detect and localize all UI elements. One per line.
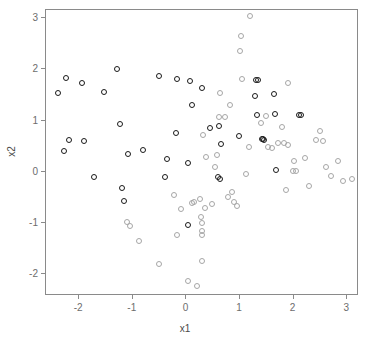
data-point-group-2	[246, 144, 252, 150]
data-point-group-2	[323, 164, 329, 170]
data-point-group-2	[156, 261, 162, 267]
data-point-group-2	[247, 13, 253, 19]
data-point-group-2	[279, 124, 285, 130]
y-tick-mark	[41, 120, 45, 121]
data-point-group-2	[285, 142, 291, 148]
data-point-group-2	[214, 152, 220, 158]
data-point-group-2	[178, 206, 184, 212]
data-point-group-1	[125, 151, 131, 157]
y-tick-label: 1	[32, 114, 38, 125]
data-point-group-1	[255, 77, 261, 83]
data-point-group-1	[162, 174, 168, 180]
data-point-group-2	[198, 214, 204, 220]
data-point-group-1	[81, 138, 87, 144]
data-point-group-2	[199, 258, 205, 264]
x-axis-label: x1	[0, 323, 370, 334]
data-point-group-1	[199, 85, 205, 91]
y-tick-label: -2	[29, 268, 38, 279]
data-point-group-1	[164, 156, 170, 162]
data-point-group-2	[349, 176, 355, 182]
y-tick-mark	[41, 222, 45, 223]
y-tick-label: 0	[32, 165, 38, 176]
x-tick-label: -1	[127, 302, 136, 313]
data-point-group-1	[185, 222, 191, 228]
x-tick-label: 2	[290, 302, 296, 313]
data-point-group-2	[229, 189, 235, 195]
x-tick-mark	[132, 295, 133, 299]
data-point-group-1	[61, 148, 67, 154]
data-point-group-1	[187, 78, 193, 84]
y-axis-label: x2	[6, 137, 17, 167]
data-point-group-2	[202, 205, 208, 211]
x-tick-label: 1	[236, 302, 242, 313]
data-point-group-1	[140, 147, 146, 153]
x-tick-mark	[185, 295, 186, 299]
data-point-group-2	[227, 102, 233, 108]
data-point-group-2	[185, 278, 191, 284]
data-point-group-1	[174, 76, 180, 82]
data-point-group-1	[91, 174, 97, 180]
x-tick-label: 0	[183, 302, 189, 313]
x-tick-mark	[78, 295, 79, 299]
data-point-group-2	[199, 232, 205, 238]
data-point-group-2	[275, 140, 281, 146]
data-point-group-2	[222, 114, 228, 120]
y-tick-label: -1	[29, 216, 38, 227]
data-point-group-1	[156, 73, 162, 79]
data-point-group-2	[171, 192, 177, 198]
y-tick-mark	[41, 68, 45, 69]
x-tick-mark	[293, 295, 294, 299]
data-point-group-1	[217, 176, 223, 182]
data-point-group-2	[237, 48, 243, 54]
plot-frame	[45, 9, 358, 295]
data-point-group-2	[306, 183, 312, 189]
data-point-group-1	[298, 112, 304, 118]
x-tick-label: -2	[74, 302, 83, 313]
data-point-group-1	[218, 141, 224, 147]
data-point-group-2	[127, 223, 133, 229]
data-point-group-1	[119, 185, 125, 191]
y-tick-mark	[41, 17, 45, 18]
data-point-group-1	[63, 75, 69, 81]
data-point-group-1	[207, 125, 213, 131]
x-tick-mark	[346, 295, 347, 299]
scatter-plot-figure: -2-10123 -2-10123 x1 x2	[0, 0, 370, 342]
data-point-group-2	[238, 33, 244, 39]
y-tick-label: 3	[32, 12, 38, 23]
x-tick-label: 3	[343, 302, 349, 313]
data-point-group-1	[189, 102, 195, 108]
data-point-group-1	[117, 121, 123, 127]
data-point-group-1	[66, 137, 72, 143]
y-tick-label: 2	[32, 63, 38, 74]
y-tick-mark	[41, 273, 45, 274]
data-point-group-2	[212, 164, 218, 170]
y-tick-mark	[41, 171, 45, 172]
x-tick-mark	[239, 295, 240, 299]
